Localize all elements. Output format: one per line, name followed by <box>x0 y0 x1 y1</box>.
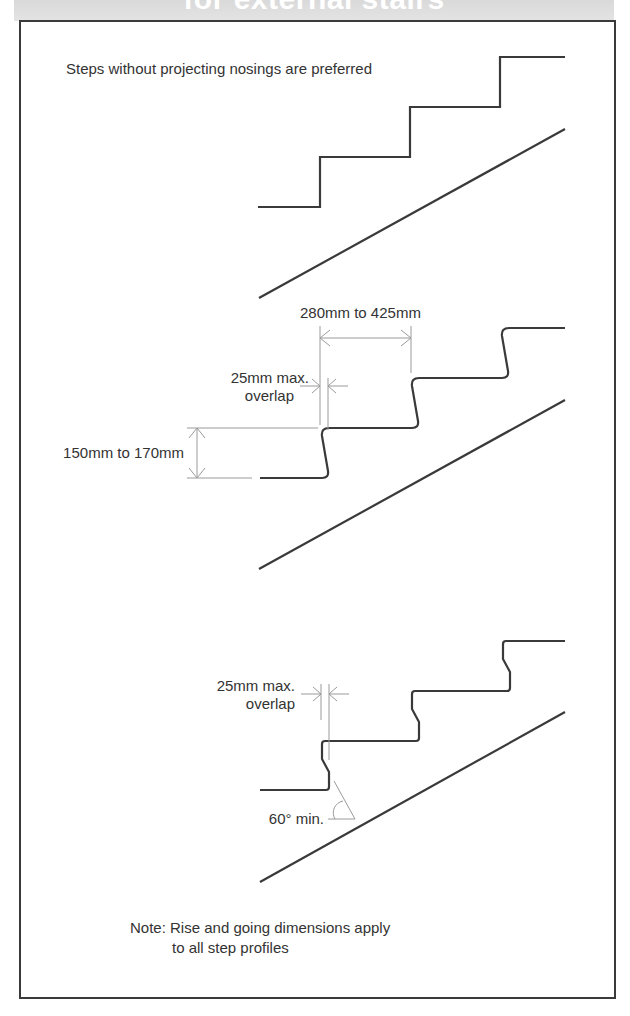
soffit-line <box>260 712 565 882</box>
note-line2: to all step profiles <box>172 939 289 956</box>
overlap-label-line1: 25mm max. <box>217 677 295 694</box>
overlap-label-line2: overlap <box>245 387 294 404</box>
angle-label: 60° min. <box>269 810 324 827</box>
rise-label: 150mm to 170mm <box>63 444 184 461</box>
chamfered-step-profile: 25mm max. overlap 60° min. <box>217 641 565 882</box>
step-outline <box>260 328 565 478</box>
note-line1: Note: Rise and going dimensions apply <box>130 919 391 936</box>
overlap-label-line1: 25mm max. <box>231 369 309 386</box>
rounded-step-profile: 280mm to 425mm 25mm max. overlap 150mm t… <box>63 304 565 569</box>
soffit-line <box>259 129 565 298</box>
angle-indicator <box>328 781 355 819</box>
going-dimension <box>320 326 411 425</box>
going-label: 280mm to 425mm <box>300 304 421 321</box>
rise-dimension <box>187 428 318 478</box>
overlap-label-line2: overlap <box>246 695 295 712</box>
square-step-profile <box>258 57 565 298</box>
step-outline <box>258 57 565 207</box>
intro-text: Steps without projecting nosings are pre… <box>66 60 372 77</box>
stair-diagram: Steps without projecting nosings are pre… <box>0 0 630 1016</box>
step-outline <box>260 641 565 790</box>
overlap-dimension <box>301 684 349 760</box>
soffit-line <box>259 400 565 569</box>
